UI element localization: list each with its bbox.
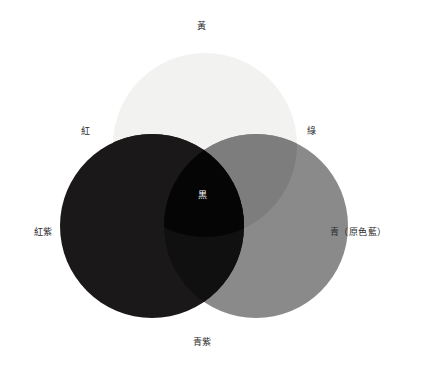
label-black: 黒: [198, 191, 208, 201]
color-mixing-diagram: 黃 紅 綠 紅紫 青（原色藍） 青紫 黒: [0, 0, 438, 367]
label-red: 紅: [81, 127, 91, 137]
label-blue-violet: 青紫: [193, 338, 212, 348]
label-magenta: 紅紫: [34, 228, 53, 238]
label-yellow: 黃: [197, 22, 207, 32]
venn-diagram-svg: [0, 0, 438, 367]
label-cyan: 青（原色藍）: [330, 228, 387, 238]
label-green: 綠: [307, 127, 317, 137]
